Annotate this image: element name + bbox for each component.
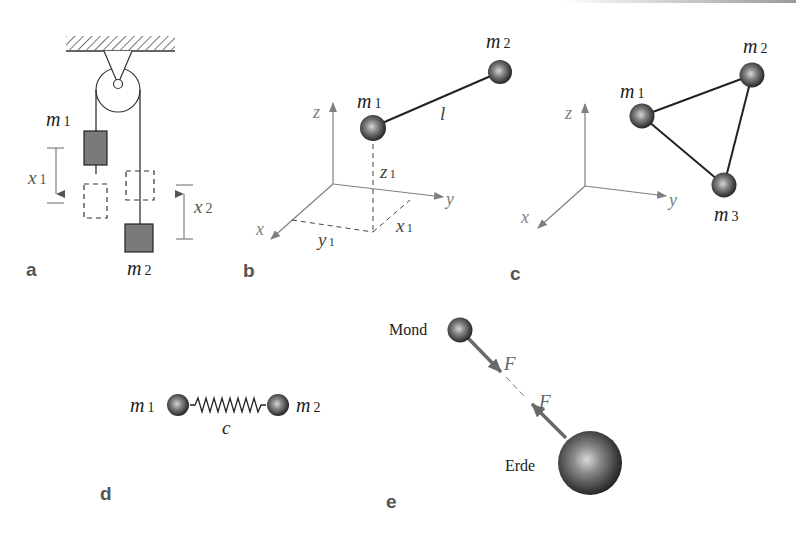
sphere-m2 [488, 60, 512, 84]
label-rod-length: l [440, 103, 445, 124]
label-m2: m2 [743, 35, 767, 57]
label-m2: m2 [296, 394, 320, 416]
x1-dimension-arrow [47, 148, 64, 203]
force-arrow-on-moon [468, 338, 501, 372]
label-x1: x1 [395, 215, 413, 236]
sphere-m2 [740, 63, 765, 88]
sphere-m3 [712, 173, 737, 198]
label-y1: y1 [316, 229, 335, 250]
axis-label-y: y [444, 189, 454, 209]
panel-label-a: a [26, 259, 37, 280]
label-x1: x1 [27, 167, 46, 188]
label-force-2: F [538, 391, 551, 412]
sphere-m1 [630, 104, 655, 129]
axis-label-x: x [255, 219, 264, 239]
moon-sphere [448, 318, 473, 343]
label-m2: m2 [486, 30, 510, 52]
earth-sphere [558, 431, 622, 495]
sphere-m1 [167, 394, 189, 416]
panel-label-b: b [243, 260, 255, 281]
mass-m1-displaced [84, 184, 107, 218]
x2-dimension-arrow [176, 185, 193, 239]
panel-label-d: d [100, 483, 112, 504]
mechanics-figure: m1 x1 x2 m2 a z y x m1 m2 l z1 x1 y1 b [0, 0, 796, 537]
label-z1: z1 [379, 161, 396, 182]
axis-label-z: z [564, 103, 572, 123]
pulley-icon [96, 51, 140, 112]
panel-b: z y x m1 m2 l z1 x1 y1 b [243, 30, 512, 281]
axes-b [271, 103, 443, 239]
spring-icon [190, 398, 266, 412]
label-m1: m1 [620, 80, 644, 102]
label-earth: Erde [505, 457, 535, 474]
label-spring-constant: c [222, 417, 231, 438]
axis-label-y: y [667, 190, 677, 210]
label-m1: m1 [357, 90, 381, 112]
label-force-1: F [503, 353, 516, 374]
sphere-m2 [267, 394, 289, 416]
sphere-m1 [360, 115, 386, 141]
rigid-rod [373, 72, 500, 127]
panel-a: m1 x1 x2 m2 a [26, 36, 212, 280]
panel-c: z y x m1 m2 m3 c [510, 35, 767, 284]
panel-label-c: c [510, 263, 521, 284]
projection-lines [292, 144, 410, 232]
mass-m2-block [125, 224, 153, 252]
label-m3: m3 [714, 203, 738, 225]
panel-e: Mond F F Erde e [386, 318, 622, 513]
axis-label-z: z [312, 102, 320, 122]
rigid-triangle [642, 75, 752, 185]
panel-d: m1 m2 c d [100, 394, 320, 504]
label-m1: m1 [46, 108, 70, 130]
line-of-action [506, 377, 524, 396]
ceiling-icon [66, 36, 175, 51]
label-m2: m2 [127, 257, 151, 279]
label-m1: m1 [130, 394, 154, 416]
label-x2: x2 [193, 196, 212, 217]
mass-m1-block [84, 131, 107, 165]
label-moon: Mond [389, 321, 427, 338]
panel-label-e: e [386, 491, 397, 512]
axis-label-x: x [520, 207, 529, 227]
